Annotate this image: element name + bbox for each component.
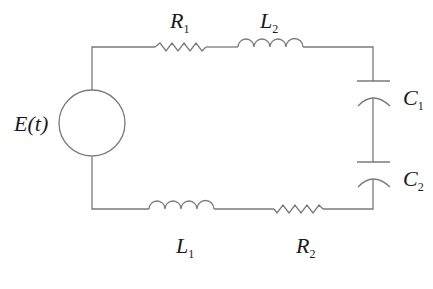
label-r1: R1 xyxy=(169,8,189,36)
label-c1: C1 xyxy=(403,85,424,113)
source-label: E(t) xyxy=(13,111,48,136)
label-l2: L2 xyxy=(259,8,278,36)
wire-top-right xyxy=(303,47,373,81)
resistor-r2 xyxy=(274,205,323,213)
label-c2: C2 xyxy=(403,166,424,194)
wire-bottom-right xyxy=(323,179,373,209)
wire-left-bottom xyxy=(92,157,149,209)
resistor-r1 xyxy=(155,43,206,51)
label-l1: L1 xyxy=(175,233,194,261)
inductor-l2 xyxy=(238,39,303,48)
capacitor-c1-plate-curved xyxy=(358,98,390,106)
voltage-source-icon xyxy=(59,90,125,156)
wire-left-top xyxy=(92,47,155,90)
label-r2: R2 xyxy=(295,233,315,261)
inductor-l1 xyxy=(149,201,214,210)
circuit-diagram: E(t) R1 L2 C1 C2 L1 R2 xyxy=(0,0,433,289)
capacitor-c2-plate-curved xyxy=(358,179,390,187)
